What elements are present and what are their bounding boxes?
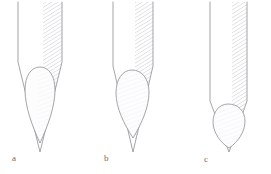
- panel-label-b: b: [104, 153, 109, 163]
- panel-label-a: a: [12, 153, 16, 163]
- tooth-root-sections-figure: a b c: [0, 0, 271, 174]
- panel-label-c: c: [204, 154, 208, 164]
